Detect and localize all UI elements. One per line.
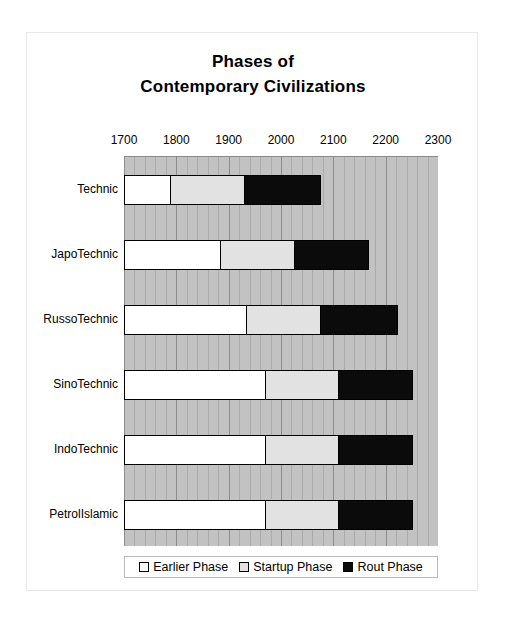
x-axis-tick-labels: 1700180019002000210022002300 — [27, 133, 479, 151]
category-label-russotechnic: RussoTechnic — [43, 312, 118, 326]
x-tick-label-1700: 1700 — [111, 133, 138, 147]
stacked-bar-indotechnic[interactable] — [124, 435, 413, 465]
x-tick-label-1900: 1900 — [215, 133, 242, 147]
stacked-bar-technic[interactable] — [124, 175, 321, 205]
chart-title-line2: Contemporary Civilizations — [27, 74, 479, 99]
category-label-japotechnic: JapoTechnic — [51, 247, 118, 261]
legend-label: Rout Phase — [357, 560, 422, 574]
bar-segment-rout[interactable] — [294, 241, 368, 269]
category-label-sinotechnic: SinoTechnic — [53, 377, 118, 391]
bar-segment-earlier[interactable] — [125, 176, 170, 204]
legend-swatch-rout-icon — [343, 562, 353, 572]
bar-segment-rout[interactable] — [338, 501, 412, 529]
x-tick-label-1800: 1800 — [163, 133, 190, 147]
legend-swatch-startup-icon — [239, 562, 249, 572]
legend-item-rout[interactable]: Rout Phase — [343, 560, 422, 574]
x-tick-label-2000: 2000 — [268, 133, 295, 147]
bar-segment-startup[interactable] — [265, 436, 338, 464]
bar-segment-earlier[interactable] — [125, 241, 220, 269]
bar-segment-startup[interactable] — [170, 176, 244, 204]
x-tick-label-2100: 2100 — [320, 133, 347, 147]
x-tick-label-2300: 2300 — [425, 133, 452, 147]
x-tick-label-2200: 2200 — [372, 133, 399, 147]
stacked-bar-russotechnic[interactable] — [124, 305, 398, 335]
legend-label: Startup Phase — [253, 560, 332, 574]
bar-series-container — [124, 157, 438, 546]
category-label-technic: Technic — [77, 182, 118, 196]
bar-segment-rout[interactable] — [338, 436, 412, 464]
chart-legend: Earlier PhaseStartup PhaseRout Phase — [124, 556, 438, 578]
bar-segment-earlier[interactable] — [125, 371, 265, 399]
bar-segment-earlier[interactable] — [125, 436, 265, 464]
bar-segment-rout[interactable] — [338, 371, 412, 399]
legend-label: Earlier Phase — [153, 560, 228, 574]
bar-segment-earlier[interactable] — [125, 501, 265, 529]
bar-segment-rout[interactable] — [320, 306, 396, 334]
bar-segment-earlier[interactable] — [125, 306, 246, 334]
bar-segment-rout[interactable] — [244, 176, 320, 204]
chart-title: Phases of Contemporary Civilizations — [27, 49, 479, 99]
stacked-bar-japotechnic[interactable] — [124, 240, 369, 270]
stacked-bar-petrolislamic[interactable] — [124, 500, 413, 530]
legend-item-earlier[interactable]: Earlier Phase — [139, 560, 228, 574]
chart-title-line1: Phases of — [212, 52, 294, 71]
chart-frame: Phases of Contemporary Civilizations 170… — [26, 32, 478, 591]
legend-swatch-earlier-icon — [139, 562, 149, 572]
category-label-petrolislamic: PetrolIslamic — [49, 507, 118, 521]
y-axis-category-labels: TechnicJapoTechnicRussoTechnicSinoTechni… — [27, 156, 122, 546]
stacked-bar-sinotechnic[interactable] — [124, 370, 413, 400]
plot-area — [124, 156, 438, 546]
bar-segment-startup[interactable] — [265, 501, 338, 529]
bar-segment-startup[interactable] — [246, 306, 320, 334]
bar-segment-startup[interactable] — [220, 241, 294, 269]
bar-segment-startup[interactable] — [265, 371, 338, 399]
category-label-indotechnic: IndoTechnic — [54, 442, 118, 456]
legend-item-startup[interactable]: Startup Phase — [239, 560, 332, 574]
